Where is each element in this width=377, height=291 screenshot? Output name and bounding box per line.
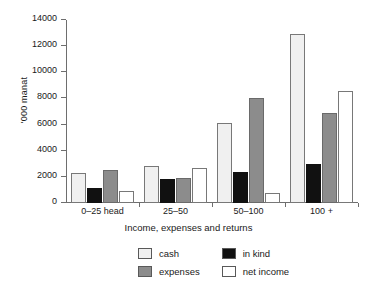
y-axis-title: '000 manat — [19, 50, 29, 150]
y-tick: 10000 — [61, 71, 66, 72]
x-axis-title: Income, expenses and returns — [0, 222, 377, 233]
y-tick-label: 8000 — [37, 91, 57, 101]
plot-area: 02000400060008000100001200014000 0–25 he… — [66, 20, 358, 203]
bar-in-kind — [306, 164, 321, 203]
bar-chart-figure: '000 manat 02000400060008000100001200014… — [0, 0, 377, 291]
y-tick: 0 — [61, 202, 66, 203]
bar-net-income — [265, 193, 280, 203]
bar-cash — [290, 34, 305, 203]
legend-swatch-icon — [138, 248, 152, 259]
bar-group: 0–25 head — [71, 20, 134, 203]
legend-item-in-kind[interactable]: in kind — [222, 248, 289, 259]
legend-swatch-icon — [222, 266, 236, 277]
bar-expenses — [249, 98, 264, 203]
y-tick: 12000 — [61, 45, 66, 46]
y-tick: 14000 — [61, 19, 66, 20]
bar-group: 50–100 — [217, 20, 280, 203]
y-tick-label: 14000 — [32, 13, 57, 23]
legend-label: cash — [159, 248, 179, 259]
x-tick-label: 100 + — [262, 206, 377, 216]
bar-net-income — [119, 191, 134, 203]
bar-expenses — [176, 178, 191, 203]
y-tick: 2000 — [61, 176, 66, 177]
y-tick-label: 4000 — [37, 144, 57, 154]
legend-label: net income — [243, 266, 289, 277]
bar-cash — [71, 173, 86, 203]
y-tick: 4000 — [61, 150, 66, 151]
y-axis-line — [66, 20, 67, 203]
bar-group: 100 + — [290, 20, 353, 203]
y-tick-label: 10000 — [32, 65, 57, 75]
bar-expenses — [103, 170, 118, 203]
y-tick: 8000 — [61, 97, 66, 98]
y-tick-label: 12000 — [32, 39, 57, 49]
y-tick-label: 6000 — [37, 118, 57, 128]
x-tick — [358, 203, 359, 207]
legend-item-cash[interactable]: cash — [138, 248, 200, 259]
x-tick — [139, 203, 140, 207]
bar-in-kind — [87, 188, 102, 203]
legend-swatch-icon — [222, 248, 236, 259]
bar-cash — [217, 123, 232, 203]
y-tick-label: 0 — [52, 196, 57, 206]
bar-in-kind — [233, 172, 248, 203]
bar-group: 25–50 — [144, 20, 207, 203]
bar-net-income — [338, 91, 353, 203]
legend-item-expenses[interactable]: expenses — [138, 266, 200, 277]
x-tick — [212, 203, 213, 207]
y-tick: 6000 — [61, 124, 66, 125]
legend-label: in kind — [243, 248, 270, 259]
x-tick — [285, 203, 286, 207]
chart-legend: cashin kindexpensesnet income — [138, 248, 289, 277]
legend-item-net-income[interactable]: net income — [222, 266, 289, 277]
bar-net-income — [192, 168, 207, 203]
bar-expenses — [322, 113, 337, 203]
bar-cash — [144, 166, 159, 203]
legend-label: expenses — [159, 266, 200, 277]
legend-swatch-icon — [138, 266, 152, 277]
bar-in-kind — [160, 179, 175, 203]
y-tick-label: 2000 — [37, 170, 57, 180]
